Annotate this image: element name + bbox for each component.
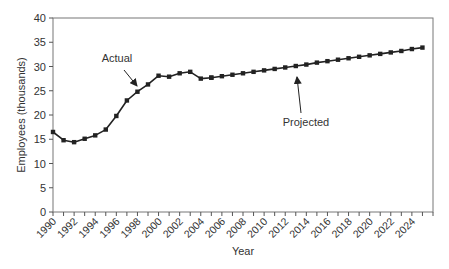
projected-marker bbox=[283, 65, 287, 69]
y-tick-label: 0 bbox=[40, 206, 46, 218]
y-tick-label: 25 bbox=[34, 85, 46, 97]
x-tick-label: 2016 bbox=[308, 215, 333, 240]
projected-marker bbox=[72, 140, 76, 144]
y-tick-label: 35 bbox=[34, 36, 46, 48]
y-tick-label: 20 bbox=[34, 109, 46, 121]
projected-marker bbox=[82, 137, 86, 141]
projected-marker bbox=[125, 98, 129, 102]
projected-marker bbox=[304, 62, 308, 66]
y-axis: 0510152025303540 bbox=[34, 12, 53, 218]
y-tick-label: 40 bbox=[34, 12, 46, 24]
projected-marker bbox=[220, 74, 224, 78]
projected-marker bbox=[410, 47, 414, 51]
y-tick-label: 5 bbox=[40, 182, 46, 194]
plot-frame bbox=[53, 18, 433, 212]
actual-series-line bbox=[53, 72, 211, 142]
projected-marker bbox=[156, 74, 160, 78]
projected-marker bbox=[135, 90, 139, 94]
projected-marker bbox=[167, 74, 171, 78]
projected-marker bbox=[104, 127, 108, 131]
x-tick-label: 2010 bbox=[245, 215, 270, 240]
projected-marker bbox=[262, 68, 266, 72]
x-tick-label: 2000 bbox=[139, 215, 164, 240]
x-tick-label: 2012 bbox=[266, 215, 291, 240]
employees-line-chart: 0510152025303540 19901992199419961998200… bbox=[0, 0, 449, 269]
y-tick-label: 30 bbox=[34, 61, 46, 73]
projected-marker bbox=[177, 71, 181, 75]
projected-marker bbox=[294, 64, 298, 68]
y-tick-label: 10 bbox=[34, 158, 46, 170]
x-tick-label: 1992 bbox=[55, 215, 80, 240]
projected-marker bbox=[209, 75, 213, 79]
annotation-actual-label: Actual bbox=[102, 52, 133, 64]
projected-marker bbox=[61, 138, 65, 142]
projected-marker bbox=[378, 52, 382, 56]
plot-border bbox=[53, 18, 433, 212]
projected-marker bbox=[399, 49, 403, 53]
x-tick-label: 1998 bbox=[118, 215, 143, 240]
x-tick-label: 2014 bbox=[287, 215, 312, 240]
x-tick-label: 1990 bbox=[33, 215, 58, 240]
projected-marker bbox=[241, 71, 245, 75]
projected-marker bbox=[272, 67, 276, 71]
annotation-actual-arrow bbox=[124, 70, 137, 86]
projected-marker bbox=[357, 55, 361, 59]
projected-marker bbox=[146, 82, 150, 86]
annotation-projected-label: Projected bbox=[283, 116, 329, 128]
x-tick-label: 2020 bbox=[350, 215, 375, 240]
projected-marker bbox=[188, 70, 192, 74]
x-tick-label: 2018 bbox=[329, 215, 354, 240]
projected-marker bbox=[230, 73, 234, 77]
projected-marker bbox=[325, 59, 329, 63]
y-tick-label: 15 bbox=[34, 133, 46, 145]
projected-marker bbox=[51, 130, 55, 134]
x-tick-label: 2024 bbox=[392, 215, 417, 240]
projected-marker bbox=[251, 70, 255, 74]
projected-marker bbox=[346, 56, 350, 60]
x-tick-label: 1994 bbox=[76, 215, 101, 240]
projected-marker bbox=[114, 114, 118, 118]
x-axis: 1990199219941996199820002002200420062008… bbox=[33, 212, 433, 240]
projected-marker bbox=[420, 45, 424, 49]
projected-marker bbox=[389, 50, 393, 54]
projected-marker bbox=[315, 60, 319, 64]
projected-marker bbox=[199, 76, 203, 80]
x-tick-label: 2002 bbox=[160, 215, 185, 240]
annotation-projected-arrow bbox=[297, 77, 301, 113]
projected-marker bbox=[367, 53, 371, 57]
x-tick-label: 2008 bbox=[223, 215, 248, 240]
projected-marker bbox=[93, 133, 97, 137]
x-tick-label: 2006 bbox=[202, 215, 227, 240]
x-tick-label: 1996 bbox=[97, 215, 122, 240]
y-axis-label: Employees (thousands) bbox=[15, 57, 27, 173]
x-tick-label: 2004 bbox=[181, 215, 206, 240]
projected-marker bbox=[336, 58, 340, 62]
x-tick-label: 2022 bbox=[371, 215, 396, 240]
x-axis-label: Year bbox=[232, 245, 255, 257]
